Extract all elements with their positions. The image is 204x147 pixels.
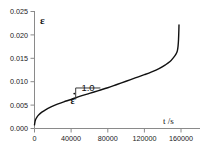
chart-svg: 0.025 0.020 0.015 0.010 0.005 0.000 0 40… bbox=[0, 0, 204, 147]
slope-value-label: 1.0 bbox=[81, 82, 94, 93]
epsilon-symbol: ε bbox=[71, 95, 76, 106]
x-tick-label: 0 bbox=[33, 134, 37, 143]
y-tick-label: 0.000 bbox=[10, 124, 28, 133]
y-tick-label: 0.015 bbox=[10, 54, 28, 63]
y-axis-tick-labels: 0.025 0.020 0.015 0.010 0.005 0.000 bbox=[10, 7, 28, 133]
creep-strain-curve bbox=[35, 25, 179, 125]
y-tick-label: 0.025 bbox=[10, 7, 28, 16]
x-tick-label: 160000 bbox=[169, 134, 193, 143]
y-tick-label: 0.020 bbox=[10, 31, 28, 40]
x-tick-label: 120000 bbox=[132, 134, 156, 143]
x-tick-label: 40000 bbox=[61, 134, 81, 143]
x-axis-title: t /s bbox=[163, 116, 174, 126]
y-axis-ticks bbox=[31, 12, 35, 129]
x-tick-label: 80000 bbox=[98, 134, 118, 143]
y-tick-label: 0.010 bbox=[10, 77, 28, 86]
y-axis-title: ε bbox=[40, 14, 45, 26]
creep-curve-chart: 0.025 0.020 0.015 0.010 0.005 0.000 0 40… bbox=[0, 0, 204, 147]
x-axis-ticks bbox=[35, 129, 182, 133]
strain-rate-symbol: ε bbox=[71, 93, 76, 106]
x-axis-tick-labels: 0 40000 80000 120000 160000 bbox=[33, 134, 193, 143]
y-tick-label: 0.005 bbox=[10, 101, 28, 110]
epsilon-dot-icon bbox=[73, 93, 75, 95]
